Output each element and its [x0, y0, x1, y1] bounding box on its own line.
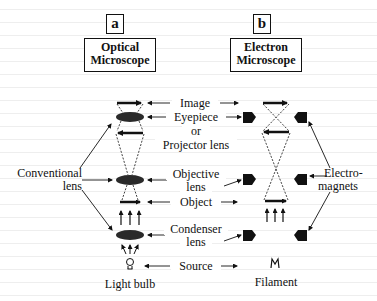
- magnet-left-objective: [243, 174, 256, 185]
- magnet-right-condenser: [294, 230, 307, 241]
- light-bulb-icon: [127, 259, 134, 270]
- label-electromagnets-1: Electro-: [324, 167, 376, 179]
- filament-icon: [271, 259, 279, 268]
- label-condenser-lens: lens: [180, 236, 212, 248]
- magnet-right-objective: [294, 174, 307, 185]
- label-image: Image: [172, 97, 218, 109]
- label-object: Object: [171, 196, 221, 208]
- label-eyepiece-or: or: [182, 125, 210, 137]
- label-projector-lens: Projector lens: [155, 139, 237, 151]
- label-objective-lens: lens: [180, 181, 212, 193]
- label-conventional-lens: lens: [50, 180, 82, 192]
- electromagnet-condenser: [243, 230, 307, 241]
- label-electromagnets-2: magnets: [318, 180, 376, 192]
- label-eyepiece: Eyepiece: [166, 111, 226, 123]
- label-objective: Objective: [166, 168, 226, 180]
- electromagnet-objective: [243, 174, 307, 185]
- electromagnet-projector: [243, 112, 307, 123]
- label-conventional: Conventional: [6, 167, 82, 179]
- electron-column: [262, 103, 290, 222]
- magnet-left-projector: [243, 112, 256, 123]
- conventional-lens-pointers: [80, 124, 112, 230]
- magnet-left-condenser: [243, 230, 256, 241]
- label-filament: Filament: [250, 276, 302, 288]
- label-light-bulb: Light bulb: [96, 278, 164, 290]
- label-source: Source: [171, 260, 221, 272]
- optical-column: [116, 103, 144, 254]
- label-condenser: Condenser: [164, 223, 228, 235]
- magnet-right-projector: [294, 112, 307, 123]
